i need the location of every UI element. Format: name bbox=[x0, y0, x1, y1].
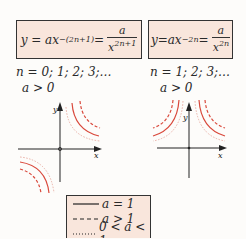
y-axis-arrow-icon bbox=[186, 102, 192, 111]
legend-item-dotted: 0 < a < 1 bbox=[67, 226, 150, 238]
origin-dot bbox=[188, 147, 191, 150]
x-axis-label: x bbox=[218, 151, 223, 160]
legend: a = 1 a > 1 0 < a < 1 bbox=[66, 195, 151, 238]
curve-dashed-right bbox=[205, 100, 225, 128]
x-axis-label: x bbox=[94, 151, 99, 160]
y-axis-label: y bbox=[182, 113, 188, 122]
curve-solid-q1 bbox=[72, 103, 99, 136]
solid-line-icon bbox=[73, 201, 99, 207]
curve-dashed-q3 bbox=[20, 169, 41, 193]
legend-item-solid: a = 1 bbox=[67, 196, 150, 211]
graph-odd-exponent: y x bbox=[18, 101, 102, 193]
curve-dashed-q1 bbox=[80, 101, 100, 128]
curve-dashed-left bbox=[153, 100, 173, 128]
y-axis-arrow-icon bbox=[57, 102, 63, 111]
dotted-line-icon bbox=[73, 231, 96, 237]
graph-even-exponent: y x bbox=[153, 100, 227, 178]
curve-dotted-q3 bbox=[20, 157, 54, 193]
curve-solid-left bbox=[153, 100, 179, 136]
legend-label: a = 1 bbox=[102, 197, 134, 211]
y-axis-label: y bbox=[52, 105, 58, 114]
curve-solid-right bbox=[199, 100, 225, 136]
dashed-line-icon bbox=[73, 216, 99, 222]
legend-label: 0 < a < 1 bbox=[99, 220, 150, 239]
